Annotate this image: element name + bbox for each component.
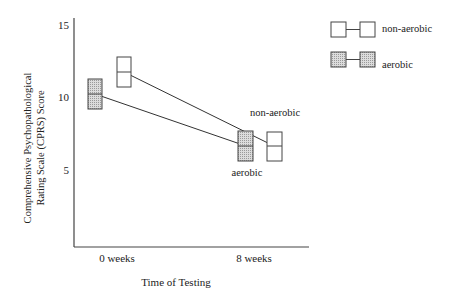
y-tick-5: 5 — [64, 164, 70, 176]
annotation-nonaerobic: non-aerobic — [250, 107, 300, 118]
y-tick-15: 15 — [58, 19, 70, 31]
y-axis-label-line2: Rating Scale (CPRS) Score — [35, 90, 47, 206]
x-axis-label: Time of Testing — [141, 276, 211, 288]
legend-box-icon — [331, 22, 346, 37]
legend-item-aerobic: aerobic — [331, 52, 413, 70]
nonaerobic-box-0-weeks — [117, 57, 131, 87]
legend: non-aerobic aerobic — [331, 22, 432, 70]
annotation-aerobic: aerobic — [232, 167, 263, 178]
aerobic-box-0-weeks — [88, 79, 102, 109]
legend-label-nonaerobic: non-aerobic — [382, 23, 432, 34]
legend-label-aerobic: aerobic — [382, 59, 413, 70]
nonaerobic-box-8-weeks — [267, 132, 282, 161]
chart-canvas: 15 10 5 Comprehensive Psychopathological… — [0, 0, 451, 300]
aerobic-series-line — [95, 94, 246, 146]
legend-box-icon — [331, 52, 346, 67]
y-axis-label-line1: Comprehensive Psychopathological — [22, 73, 33, 224]
y-tick-10: 10 — [58, 91, 70, 103]
legend-box-icon — [360, 52, 375, 67]
x-tick-0-weeks: 0 weeks — [99, 252, 135, 264]
legend-item-nonaerobic: non-aerobic — [331, 22, 432, 37]
x-tick-8-weeks: 8 weeks — [236, 252, 272, 264]
aerobic-box-8-weeks — [238, 131, 253, 161]
legend-box-icon — [360, 22, 375, 37]
